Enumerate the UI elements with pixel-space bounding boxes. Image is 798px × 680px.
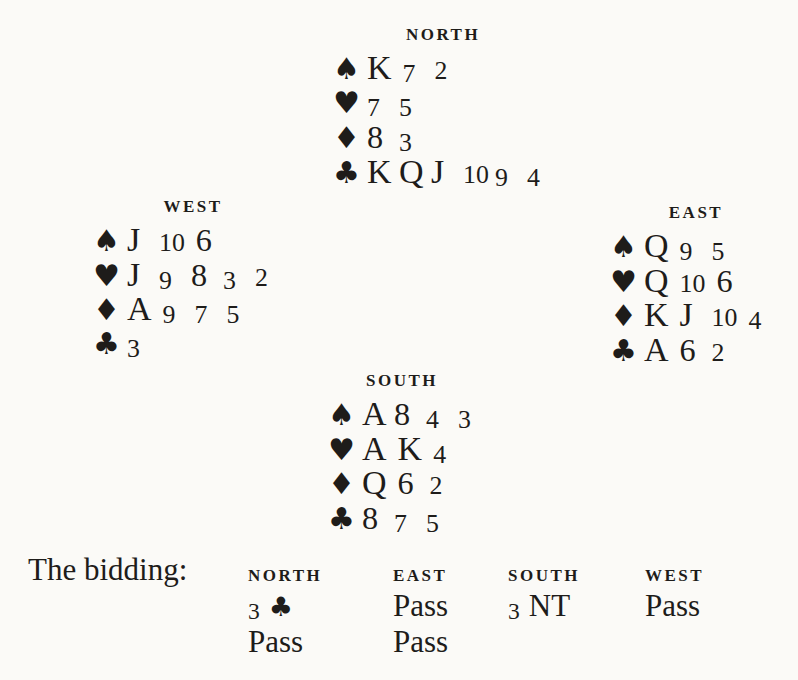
clubs-row: ♣875 bbox=[328, 501, 476, 536]
card-rank: J bbox=[127, 223, 148, 258]
bidding-header-west: WEST bbox=[645, 567, 704, 584]
card-rank: 4 bbox=[426, 403, 447, 438]
spade-icon: ♠ bbox=[328, 398, 362, 433]
clubs-row: ♣3 bbox=[93, 327, 293, 362]
card-rank: 3 bbox=[223, 264, 244, 299]
card-rank: 2 bbox=[255, 261, 276, 296]
card-rank: 9 bbox=[680, 235, 701, 270]
hand-south-label: SOUTH bbox=[328, 372, 476, 389]
hand-south: SOUTH ♠A843♥AK4♦Q62♣875 bbox=[328, 372, 476, 535]
bidding-column-north: NORTH3♣Pass bbox=[248, 552, 322, 660]
hearts-row: ♥75 bbox=[333, 86, 553, 121]
card-rank: 2 bbox=[712, 336, 733, 371]
diamond-icon: ♦ bbox=[333, 121, 367, 156]
hand-west-label: WEST bbox=[93, 198, 293, 215]
card-rank: 2 bbox=[435, 54, 456, 89]
hand-north-cards: ♠K72♥75♦83♣KQJ1094 bbox=[333, 51, 553, 189]
card-rank: 7 bbox=[403, 57, 424, 92]
bidding-column-east: EASTPassPass bbox=[393, 552, 448, 660]
card-rank: A bbox=[644, 333, 669, 368]
card-rank: 9 bbox=[163, 298, 184, 333]
hand-east-cards: ♠Q95♥Q106♦KJ104♣A62 bbox=[610, 229, 782, 367]
heart-icon: ♥ bbox=[333, 86, 367, 121]
bid-text: Pass bbox=[248, 624, 303, 660]
heart-icon: ♥ bbox=[93, 259, 127, 294]
club-icon: ♣ bbox=[269, 589, 293, 625]
hand-east-label: EAST bbox=[610, 204, 782, 221]
card-rank: 5 bbox=[426, 507, 447, 542]
card-rank: J bbox=[431, 155, 452, 190]
card-rank: 6 bbox=[398, 466, 419, 501]
diamond-icon: ♦ bbox=[93, 293, 127, 328]
heart-icon: ♥ bbox=[328, 433, 362, 468]
card-rank: 6 bbox=[196, 223, 217, 258]
club-icon: ♣ bbox=[610, 334, 644, 369]
bid-text: 3 bbox=[508, 593, 520, 629]
card-rank: 7 bbox=[394, 507, 415, 542]
diamonds-row: ♦83 bbox=[333, 120, 553, 155]
hand-north: NORTH ♠K72♥75♦83♣KQJ1094 bbox=[333, 26, 553, 189]
club-icon: ♣ bbox=[333, 156, 367, 191]
clubs-row: ♣KQJ1094 bbox=[333, 155, 553, 190]
bid: Pass bbox=[645, 588, 704, 624]
card-rank: A bbox=[362, 397, 383, 432]
bidding-header-east: EAST bbox=[393, 567, 448, 584]
card-rank: J bbox=[680, 298, 701, 333]
card-rank: 7 bbox=[367, 91, 388, 126]
spade-icon: ♠ bbox=[333, 52, 367, 87]
spades-row: ♠K72 bbox=[333, 51, 553, 86]
club-icon: ♣ bbox=[93, 327, 127, 362]
bidding-column-south: SOUTH3NT bbox=[508, 552, 580, 624]
bidding-column-west: WESTPass bbox=[645, 552, 704, 624]
diamond-icon: ♦ bbox=[610, 299, 644, 334]
bidding-table: The bidding: NORTH3♣Pass EASTPassPass SO… bbox=[0, 552, 798, 680]
bridge-book-page: NORTH ♠K72♥75♦83♣KQJ1094 WEST ♠J106♥J983… bbox=[0, 0, 798, 680]
hearts-row: ♥J9832 bbox=[93, 258, 293, 293]
card-rank: 8 bbox=[191, 258, 212, 293]
card-rank: Q bbox=[644, 229, 669, 264]
diamonds-row: ♦A975 bbox=[93, 292, 293, 327]
spade-icon: ♠ bbox=[610, 230, 644, 265]
bid: Pass bbox=[393, 624, 448, 660]
heart-icon: ♥ bbox=[610, 265, 644, 300]
bid: 3NT bbox=[508, 588, 580, 624]
bid-text: Pass bbox=[393, 588, 448, 624]
bidding-header-north: NORTH bbox=[248, 567, 322, 584]
card-rank: 8 bbox=[367, 120, 388, 155]
card-rank: Q bbox=[362, 466, 387, 501]
card-rank: 4 bbox=[748, 304, 769, 339]
card-rank: 2 bbox=[430, 469, 451, 504]
card-rank: A bbox=[127, 292, 152, 327]
card-rank: J bbox=[127, 258, 148, 293]
card-rank: 7 bbox=[195, 298, 216, 333]
card-rank: K bbox=[398, 432, 423, 467]
card-rank: 4 bbox=[527, 161, 548, 196]
diamond-icon: ♦ bbox=[328, 467, 362, 502]
bid-text: NT bbox=[529, 588, 570, 624]
card-rank: 8 bbox=[394, 397, 415, 432]
club-icon: ♣ bbox=[328, 502, 362, 537]
hand-west: WEST ♠J106♥J9832♦A975♣3 bbox=[93, 198, 293, 361]
card-rank: K bbox=[367, 51, 392, 86]
bidding-caption: The bidding: bbox=[28, 552, 187, 588]
card-rank: 5 bbox=[712, 235, 733, 270]
spades-row: ♠A843 bbox=[328, 397, 476, 432]
card-rank: 9 bbox=[495, 161, 516, 196]
card-rank: 9 bbox=[159, 264, 180, 299]
bid-text: Pass bbox=[393, 624, 448, 660]
card-rank: 5 bbox=[227, 298, 248, 333]
diamonds-row: ♦KJ104 bbox=[610, 298, 782, 333]
hand-east: EAST ♠Q95♥Q106♦KJ104♣A62 bbox=[610, 204, 782, 367]
card-rank: 3 bbox=[399, 126, 420, 161]
bid: 3♣ bbox=[248, 588, 322, 624]
spades-row: ♠Q95 bbox=[610, 229, 782, 264]
hand-west-cards: ♠J106♥J9832♦A975♣3 bbox=[93, 223, 293, 361]
spades-row: ♠J106 bbox=[93, 223, 293, 258]
card-rank: 3 bbox=[458, 403, 479, 438]
spade-icon: ♠ bbox=[93, 224, 127, 259]
bid: Pass bbox=[393, 588, 448, 624]
hand-north-label: NORTH bbox=[333, 26, 553, 43]
card-rank: 8 bbox=[362, 501, 383, 536]
card-rank: 3 bbox=[127, 332, 148, 367]
hearts-row: ♥AK4 bbox=[328, 432, 476, 467]
